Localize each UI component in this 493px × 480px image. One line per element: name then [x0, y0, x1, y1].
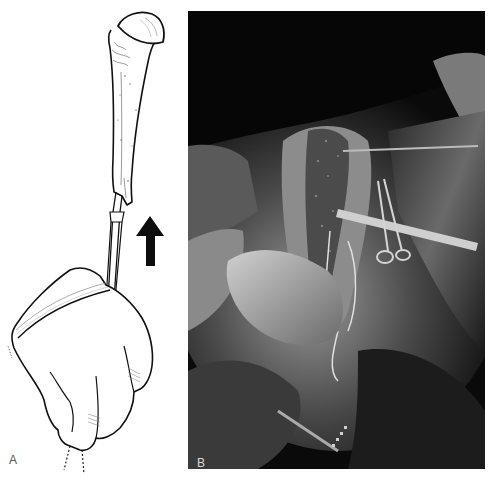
panel-b-photo: B: [188, 11, 485, 469]
panel-label-a: A: [9, 454, 17, 466]
humerus-illustration: [0, 0, 186, 480]
gloved-hand: [12, 268, 153, 450]
surgical-photo: [188, 11, 485, 469]
panel-label-b: B: [197, 457, 205, 469]
upward-arrow-icon: [136, 216, 164, 266]
rod-collar: [110, 212, 124, 222]
humerus-bone: [109, 30, 155, 205]
arm-edge: [8, 346, 12, 358]
panel-a-illustration: A: [0, 0, 186, 480]
